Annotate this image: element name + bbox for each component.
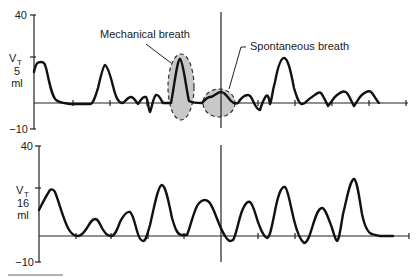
bottom-tidal-volume-trace bbox=[39, 179, 393, 243]
top-vt-label: V T 5 ml bbox=[9, 52, 23, 89]
mechanical-breath-label: Mechanical breath bbox=[100, 28, 190, 40]
bottom-vt-value: 16 bbox=[17, 197, 29, 209]
top-y-label-neg10: −10 bbox=[9, 123, 28, 135]
top-vt-main: V bbox=[9, 52, 17, 64]
mechanical-breath-leader bbox=[146, 44, 171, 63]
top-chart: 40 −10 V T 5 ml Mechanical breath Sponta… bbox=[9, 9, 408, 135]
top-y-label-40: 40 bbox=[15, 9, 27, 21]
spontaneous-breath-leader bbox=[229, 47, 246, 89]
ventilator-waveform-figure: 40 −10 V T 5 ml Mechanical breath Sponta… bbox=[0, 0, 416, 277]
bottom-chart: 40 −10 V T 16 ml bbox=[15, 140, 409, 268]
bottom-vt-label: V T 16 ml bbox=[16, 184, 29, 221]
bottom-vt-unit: ml bbox=[17, 209, 29, 221]
top-vt-unit: ml bbox=[11, 77, 23, 89]
bottom-y-label-40: 40 bbox=[21, 140, 33, 152]
bottom-vt-main: V bbox=[16, 184, 24, 196]
bottom-y-label-neg10: −10 bbox=[15, 256, 34, 268]
top-vt-value: 5 bbox=[14, 65, 20, 77]
spontaneous-breath-label: Spontaneous breath bbox=[250, 40, 349, 52]
